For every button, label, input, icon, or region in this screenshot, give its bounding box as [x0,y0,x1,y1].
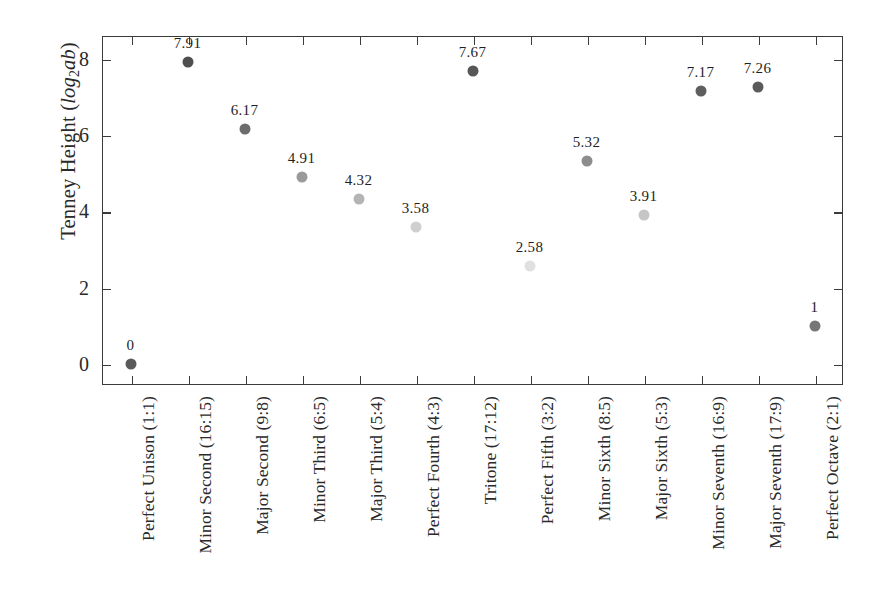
y-tick-mark-right [834,289,842,290]
y-axis-title-subscript: 2 [67,70,82,77]
data-point-label: 0 [127,337,135,354]
x-tick-label: Perfect Unison (1:1) [138,396,159,603]
y-axis-title-math: log [57,77,79,104]
data-point-label: 2.58 [516,239,543,256]
x-tick-mark-top [645,37,646,45]
x-tick-mark-top [246,37,247,45]
y-tick-label: 8 [79,47,89,70]
data-point [125,359,136,370]
y-tick-label: 4 [79,200,89,223]
x-tick-mark-top [759,37,760,45]
data-point [239,123,250,134]
x-tick-label: Perfect Fourth (4:3) [423,396,444,603]
data-point-label: 3.91 [630,188,657,205]
plot-area [102,36,843,385]
x-tick-mark [417,376,418,384]
x-tick-mark [702,376,703,384]
y-tick-mark-right [834,136,842,137]
x-tick-mark-top [132,37,133,45]
x-tick-mark [474,376,475,384]
x-tick-mark [132,376,133,384]
figure: Tenney Height (log2ab) 02468 Perfect Uni… [0,0,880,603]
x-tick-mark [531,376,532,384]
y-axis-title-prefix: Tenney Height ( [57,104,79,240]
x-tick-mark [246,376,247,384]
x-tick-mark [645,376,646,384]
data-point-label: 4.91 [288,150,315,167]
x-tick-label: Minor Second (16:15) [195,396,216,603]
x-tick-label: Major Seventh (17:9) [765,396,786,603]
data-point [809,320,820,331]
y-tick-mark [103,136,111,137]
y-axis-title-suffix: ) [57,42,79,49]
data-point-label: 7.67 [459,44,486,61]
data-point [296,171,307,182]
y-tick-mark-right [834,212,842,213]
data-point-label: 1 [811,299,819,316]
x-tick-mark-top [360,37,361,45]
data-point-label: 6.17 [231,102,258,119]
y-tick-label: 2 [79,276,89,299]
y-tick-mark-right [834,60,842,61]
x-tick-mark-top [303,37,304,45]
x-tick-label: Minor Third (6:5) [309,396,330,603]
y-tick-label: 6 [79,124,89,147]
y-axis-title-math-tail: ab [57,49,79,70]
data-point [182,57,193,68]
x-tick-label: Perfect Fifth (3:2) [537,396,558,603]
x-tick-label: Major Sixth (5:3) [651,396,672,603]
x-tick-mark-top [531,37,532,45]
data-point [752,82,763,93]
data-point [467,66,478,77]
x-tick-label: Minor Sixth (8:5) [594,396,615,603]
x-tick-label: Major Third (5:4) [366,396,387,603]
x-tick-label: Tritone (17:12) [480,396,501,603]
x-tick-mark [189,376,190,384]
y-tick-mark [103,212,111,213]
x-tick-mark [588,376,589,384]
x-tick-label: Major Second (9:8) [252,396,273,603]
data-point-label: 7.91 [174,35,201,52]
x-tick-mark-top [816,37,817,45]
data-point [695,85,706,96]
y-tick-mark-right [834,365,842,366]
x-tick-mark [816,376,817,384]
x-tick-mark [759,376,760,384]
y-tick-mark [103,289,111,290]
data-point-label: 3.58 [402,200,429,217]
data-point-label: 7.26 [744,60,771,77]
x-tick-label: Perfect Octave (2:1) [822,396,843,603]
data-point [638,209,649,220]
data-point [581,156,592,167]
y-tick-mark [103,60,111,61]
x-tick-mark [303,376,304,384]
data-point [524,260,535,271]
data-point [353,194,364,205]
x-tick-label: Minor Seventh (16:9) [708,396,729,603]
x-tick-mark-top [588,37,589,45]
data-point-label: 7.17 [687,64,714,81]
y-tick-mark [103,365,111,366]
data-point [410,222,421,233]
y-tick-label: 0 [79,353,89,376]
data-point-label: 5.32 [573,134,600,151]
x-tick-mark-top [702,37,703,45]
x-tick-mark-top [417,37,418,45]
x-tick-mark [360,376,361,384]
data-point-label: 4.32 [345,172,372,189]
